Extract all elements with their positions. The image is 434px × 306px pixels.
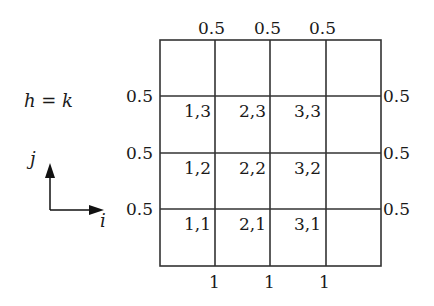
cell-label: 1,2 xyxy=(184,160,211,177)
axis-arrows xyxy=(45,163,104,215)
i-axis-label: i xyxy=(100,212,106,230)
bottom-label: 1 xyxy=(209,274,220,291)
top-label: 0.5 xyxy=(309,20,336,37)
j-axis-label: j xyxy=(30,150,36,168)
left-label: 0.5 xyxy=(126,201,153,218)
bottom-label: 1 xyxy=(264,274,275,291)
equation-label: h = k xyxy=(24,92,73,110)
right-label: 0.5 xyxy=(383,145,410,162)
cell-label: 1,1 xyxy=(184,216,211,233)
cell-label: 3,3 xyxy=(294,103,321,120)
arrow-up-icon xyxy=(45,163,55,178)
cell-label: 1,3 xyxy=(184,103,211,120)
top-label: 0.5 xyxy=(198,20,225,37)
left-label: 0.5 xyxy=(126,145,153,162)
cell-label: 3,2 xyxy=(294,160,321,177)
left-label: 0.5 xyxy=(126,88,153,105)
right-label: 0.5 xyxy=(383,201,410,218)
top-label: 0.5 xyxy=(254,20,281,37)
bottom-label: 1 xyxy=(319,274,330,291)
grid-lines xyxy=(0,0,434,306)
cell-label: 3,1 xyxy=(294,216,321,233)
cell-label: 2,1 xyxy=(239,216,266,233)
cell-label: 2,2 xyxy=(239,160,266,177)
cell-label: 2,3 xyxy=(239,103,266,120)
right-label: 0.5 xyxy=(383,88,410,105)
